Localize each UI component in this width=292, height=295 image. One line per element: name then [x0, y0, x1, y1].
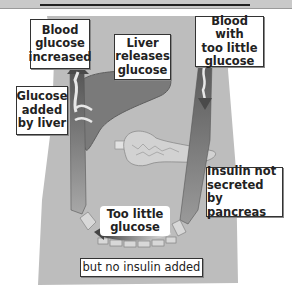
- label-too-little-glucose: Too little glucose: [100, 206, 170, 236]
- label-no-insulin-added: but no insulin added: [80, 258, 203, 277]
- label-blood-too-little-glucose: Blood with too little glucose: [195, 16, 264, 67]
- left-vessel: [70, 70, 86, 214]
- label-liver-releases-glucose: Liver releases glucose: [114, 34, 171, 80]
- label-blood-glucose-increased: Blood glucose increased: [30, 19, 90, 69]
- label-glucose-added-by-liver: Glucose added by liver: [16, 86, 68, 135]
- label-insulin-not-secreted: Insulin not secreted by pancreas: [206, 167, 283, 217]
